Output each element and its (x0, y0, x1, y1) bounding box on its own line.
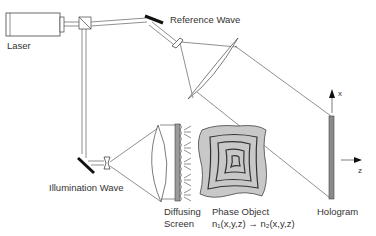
illumination-mirror-icon (78, 158, 94, 173)
axis-x-label: x (338, 89, 342, 99)
diffusing-screen-icon (175, 124, 182, 201)
diffusing-screen-label-line1: Diffusing (164, 207, 201, 217)
holography-diagram: Laser Reference Wave Illumination Wave D… (0, 0, 376, 236)
reference-diverge-beam (149, 22, 176, 44)
beam-splitter-icon (79, 17, 91, 29)
phase-formula-label: n₁(x,y,z) → n₂(x,y,z) (212, 219, 295, 229)
axis-x-arrow-icon (329, 89, 335, 113)
scattered-light-arrows (184, 126, 191, 201)
reference-mirror-icon (145, 16, 163, 23)
illumination-horizontal-beam (88, 161, 104, 165)
reference-beam (91, 18, 147, 26)
illumination-beam (82, 29, 86, 158)
hologram-label: Hologram (317, 207, 358, 217)
phase-object-label: Phase Object (212, 207, 269, 217)
laser-beam (64, 22, 79, 26)
axis-z-label: z (358, 166, 362, 176)
phase-object-icon (198, 126, 266, 198)
axis-z-arrow-icon (341, 157, 362, 163)
hologram-plate-icon (329, 116, 334, 199)
diagram-canvas (0, 0, 376, 236)
illumination-collimating-lens-icon (152, 125, 167, 202)
reference-collimating-lens-icon (188, 38, 238, 99)
illumination-wave-label: Illumination Wave (49, 183, 124, 193)
diffusing-screen-label-line2: Screen (164, 219, 194, 229)
laser-label: Laser (7, 41, 31, 51)
reference-wave-label: Reference Wave (170, 15, 240, 25)
illumination-expander-lens-icon (104, 157, 110, 169)
laser-icon (6, 13, 64, 36)
